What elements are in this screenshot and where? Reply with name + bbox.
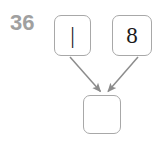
node-top-right-label: 8 bbox=[126, 24, 138, 47]
node-bottom[interactable] bbox=[83, 95, 121, 134]
node-top-left-label: | bbox=[70, 24, 75, 47]
diagram-canvas: 36 | 8 bbox=[0, 0, 166, 144]
edge-right-to-bottom bbox=[108, 57, 138, 92]
index-label: 36 bbox=[10, 11, 34, 35]
node-top-right[interactable]: 8 bbox=[112, 15, 152, 56]
node-top-left[interactable]: | bbox=[54, 15, 91, 56]
edge-left-to-bottom bbox=[70, 57, 101, 92]
